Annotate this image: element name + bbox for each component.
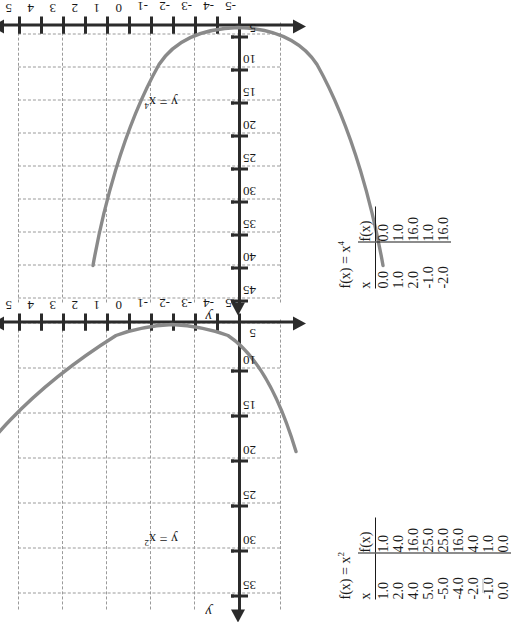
x-tick-label: 5 bbox=[6, 1, 13, 14]
table-quartic: f(x) = x4 x f(x) 0.00.0 1.01.0 2.016.0 -… bbox=[336, 207, 451, 289]
x-tick-label: -5 bbox=[225, 0, 236, 12]
table-row: -2.04.0 bbox=[466, 518, 481, 600]
table-row: 4.016.0 bbox=[406, 518, 421, 600]
y-tick-label: 35 bbox=[243, 217, 256, 230]
x-tick-label: -1 bbox=[137, 0, 148, 12]
table-square-values: x f(x) 1.01.0 2.04.0 4.016.0 5.025.0 -5.… bbox=[358, 518, 511, 600]
x-tick-label: 4 bbox=[28, 1, 35, 14]
table-row: 1.01.0 bbox=[375, 518, 391, 600]
figure-quartic-plot: y = x4 y x 45 40 35 30 25 20 15 10 5 5 4… bbox=[0, 0, 300, 310]
table-square-title: f(x) = x2 bbox=[336, 518, 354, 600]
table-header-fx: f(x) bbox=[358, 518, 376, 553]
table-row: 0.00.0 bbox=[496, 518, 511, 600]
table-row: -5.025.0 bbox=[436, 518, 451, 600]
y-tick-label: 5 bbox=[250, 326, 257, 339]
x-tick-label: -2 bbox=[159, 0, 170, 12]
table-quartic-values: x f(x) 0.00.0 1.01.0 2.016.0 -1.01.0 -2.… bbox=[358, 207, 451, 289]
x-tick-label: 2 bbox=[72, 1, 79, 14]
figure-quartic-panel: y = x4 y x 45 40 35 30 25 20 15 10 5 5 4… bbox=[0, 0, 486, 310]
table-row: -2.016.0 bbox=[436, 207, 451, 289]
table-header-x: x bbox=[358, 242, 376, 289]
y-tick-label: 25 bbox=[243, 488, 256, 501]
y-tick-label: 20 bbox=[243, 118, 256, 131]
table-row: -4.016.0 bbox=[451, 518, 466, 600]
y-axis-name: y bbox=[205, 307, 212, 324]
x-tick-label: 1 bbox=[94, 1, 101, 14]
table-row: 2.04.0 bbox=[391, 518, 406, 600]
figure-square-plot: y = x2 y x 35 30 25 20 15 10 5 5 4 3 2 1… bbox=[0, 310, 300, 621]
equation-label-square: y = x2 bbox=[145, 529, 178, 547]
table-header-fx: f(x) bbox=[358, 207, 376, 242]
scan-edge-artifact bbox=[482, 579, 484, 593]
table-quartic-title: f(x) = x4 bbox=[336, 207, 354, 289]
y-tick-label: 30 bbox=[243, 184, 256, 197]
figure-square-panel: y = x2 y x 35 30 25 20 15 10 5 5 4 3 2 1… bbox=[0, 310, 486, 621]
x-tick-label: -3 bbox=[181, 0, 192, 12]
table-row: 2.016.0 bbox=[406, 207, 421, 289]
y-tick-label: 35 bbox=[243, 578, 256, 591]
x-tick-label: -4 bbox=[203, 0, 214, 12]
y-tick-label: 15 bbox=[243, 398, 256, 411]
y-tick-label: 25 bbox=[243, 151, 256, 164]
y-tick-label: 30 bbox=[243, 533, 256, 546]
x-tick-label: 3 bbox=[50, 1, 57, 14]
y-axis-name: y bbox=[205, 602, 212, 619]
y-tick-label: 45 bbox=[243, 283, 256, 296]
y-tick-label: 40 bbox=[243, 250, 256, 263]
table-row: 5.025.0 bbox=[421, 518, 436, 600]
y-tick-label: 15 bbox=[243, 85, 256, 98]
equation-label-quartic: y = x4 bbox=[145, 92, 178, 110]
table-row: 1.01.0 bbox=[391, 207, 406, 289]
y-tick-label: 5 bbox=[250, 21, 257, 34]
y-tick-label: 20 bbox=[243, 443, 256, 456]
table-row: -1.01.0 bbox=[421, 207, 436, 289]
table-square: f(x) = x2 x f(x) 1.01.0 2.04.0 4.016.0 5… bbox=[336, 518, 511, 600]
y-tick-label: 10 bbox=[243, 353, 256, 366]
table-header-x: x bbox=[358, 553, 376, 600]
x-tick-label: 0 bbox=[116, 1, 123, 14]
y-tick-label: 10 bbox=[243, 52, 256, 65]
table-row: 0.00.0 bbox=[375, 207, 391, 289]
